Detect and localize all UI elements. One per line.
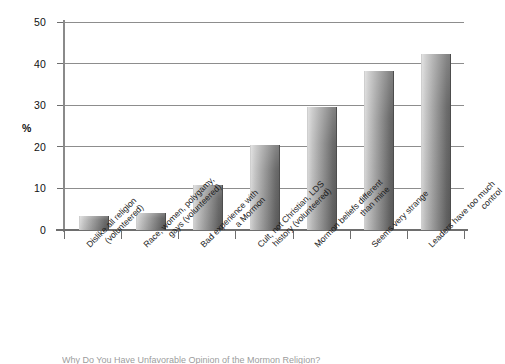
y-tick-label: 20 xyxy=(0,142,46,152)
y-tick-label: 0 xyxy=(0,225,46,235)
bar-shading xyxy=(422,54,450,230)
y-tick-label: 10 xyxy=(0,183,46,193)
figure-caption-clipped: Why Do You Have Unfavorable Opinion of t… xyxy=(0,356,480,364)
bar-shading xyxy=(251,145,279,230)
y-axis-title: % xyxy=(22,122,31,134)
y-tick-label: 30 xyxy=(0,100,46,110)
y-tick-label: 40 xyxy=(0,59,46,69)
x-tick-mark xyxy=(64,231,65,239)
bar xyxy=(250,145,280,230)
bar xyxy=(421,54,451,230)
figure-caption-text: Why Do You Have Unfavorable Opinion of t… xyxy=(62,356,320,364)
y-tick-label: 50 xyxy=(0,17,46,27)
x-tick-mark xyxy=(407,231,408,239)
